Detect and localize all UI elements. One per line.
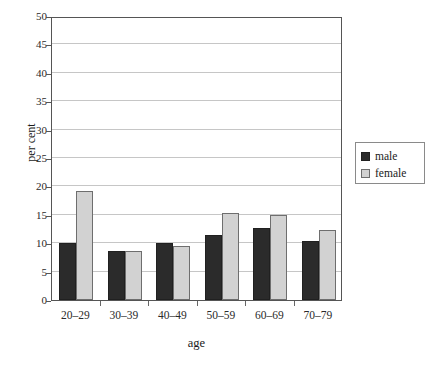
- legend-swatch-male-icon: [361, 152, 370, 161]
- y-tick-label: 30: [17, 125, 47, 136]
- y-tick-label: 35: [17, 96, 47, 107]
- bar-male-40-49: [156, 243, 173, 300]
- bar-male-60-69: [253, 228, 270, 300]
- x-tick-mark: [148, 301, 149, 306]
- legend-item-female[interactable]: female: [361, 165, 424, 181]
- x-tick-label: 50–59: [197, 309, 246, 322]
- legend-label-male: male: [375, 150, 397, 162]
- y-tick-label: 15: [17, 210, 47, 221]
- gridline: [52, 185, 341, 186]
- legend: male female: [355, 142, 425, 184]
- x-tick-mark: [294, 301, 295, 306]
- gridline: [52, 271, 341, 272]
- x-axis-title: age: [51, 336, 342, 351]
- bar-male-50-59: [205, 235, 222, 300]
- x-tick-label: 70–79: [294, 309, 343, 322]
- legend-item-male[interactable]: male: [361, 148, 424, 164]
- bar-female-60-69: [270, 215, 287, 300]
- gridline: [52, 242, 341, 243]
- y-tick-label: 45: [17, 39, 47, 50]
- y-tick-mark: [46, 301, 51, 302]
- gridline: [52, 72, 341, 73]
- bar-female-20-29: [76, 191, 93, 300]
- plot-area: [51, 17, 342, 301]
- y-tick-label: 0: [17, 295, 47, 306]
- bar-chart: per cent 05101520253035404550 20–2930–39…: [0, 0, 433, 371]
- bar-male-20-29: [59, 243, 76, 300]
- gridline: [52, 129, 341, 130]
- x-tick-label: 60–69: [245, 309, 294, 322]
- x-tick-label: 40–49: [148, 309, 197, 322]
- y-tick-label: 10: [17, 238, 47, 249]
- x-tick-mark: [100, 301, 101, 306]
- bar-male-70-79: [302, 241, 319, 300]
- gridline: [52, 43, 341, 44]
- bar-female-70-79: [319, 230, 336, 300]
- y-tick-label: 25: [17, 153, 47, 164]
- y-tick-label: 50: [17, 11, 47, 22]
- x-tick-label: 20–29: [51, 309, 100, 322]
- bar-male-30-39: [108, 251, 125, 300]
- bar-female-30-39: [125, 251, 142, 300]
- legend-label-female: female: [375, 167, 406, 179]
- gridline: [52, 100, 341, 101]
- x-tick-mark: [245, 301, 246, 306]
- bar-female-50-59: [222, 213, 239, 300]
- gridline: [52, 157, 341, 158]
- legend-swatch-female-icon: [361, 169, 370, 178]
- y-axis-title: per cent: [24, 98, 39, 188]
- bar-female-40-49: [173, 246, 190, 300]
- x-tick-label: 30–39: [100, 309, 149, 322]
- y-tick-label: 20: [17, 181, 47, 192]
- x-tick-mark: [197, 301, 198, 306]
- gridline: [52, 214, 341, 215]
- y-tick-label: 5: [17, 267, 47, 278]
- y-tick-label: 40: [17, 68, 47, 79]
